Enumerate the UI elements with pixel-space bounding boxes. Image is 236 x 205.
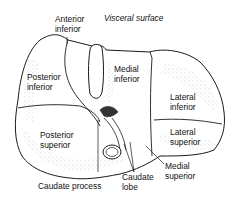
label-lateral-inferior: Lateral inferior <box>170 93 196 112</box>
label-caudate-lobe: Caudate lobe <box>122 173 154 192</box>
diagram-title: Visceral surface <box>104 14 163 24</box>
label-anterior-inferior: Anterior inferior <box>55 15 84 34</box>
label-lateral-superior: Lateral superior <box>170 128 200 147</box>
label-posterior-superior: Posterior superior <box>40 131 74 150</box>
label-caudate-process: Caudate process <box>38 182 101 192</box>
label-posterior-inferior: Posterior inferior <box>27 73 61 92</box>
label-medial-inferior: Medial inferior <box>114 65 140 84</box>
gallbladder <box>89 44 104 98</box>
label-medial-superior: Medial superior <box>165 162 195 181</box>
liver-visceral-surface-illustration <box>0 0 236 205</box>
